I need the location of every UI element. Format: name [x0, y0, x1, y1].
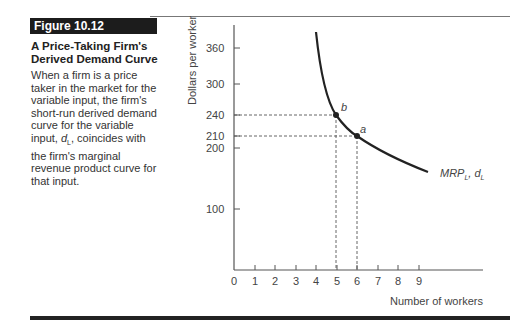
y-ticks	[234, 48, 240, 209]
svg-text:3: 3	[293, 275, 299, 287]
svg-text:210: 210	[206, 130, 224, 142]
svg-text:1: 1	[252, 275, 258, 287]
svg-text:6: 6	[354, 275, 360, 287]
mrp-curve	[316, 32, 428, 172]
svg-text:200: 200	[206, 142, 224, 154]
svg-text:4: 4	[313, 275, 319, 287]
x-axis-title: Number of workers	[390, 295, 483, 307]
svg-text:9: 9	[416, 275, 422, 287]
svg-text:300: 300	[206, 78, 224, 90]
y-tick-labels: 360 300 240 210 200 100	[206, 42, 224, 215]
svg-text:8: 8	[395, 275, 401, 287]
guide-lines	[234, 115, 357, 270]
curve-label: MRPL, dL	[440, 167, 485, 181]
svg-text:7: 7	[375, 275, 381, 287]
svg-text:0: 0	[231, 275, 237, 287]
x-tick-labels: 0 1 2 3 4 5 6 7 8 9	[231, 275, 422, 287]
svg-text:360: 360	[206, 42, 224, 54]
point-b	[333, 112, 339, 118]
x-ticks	[255, 265, 419, 270]
y-axis-title: Dollars per worker	[186, 15, 198, 105]
point-b-label: b	[341, 101, 347, 113]
svg-text:100: 100	[206, 203, 224, 215]
svg-text:2: 2	[272, 275, 278, 287]
point-a-label: a	[360, 123, 366, 135]
svg-text:240: 240	[206, 109, 224, 121]
chart: 360 300 240 210 200 100 0 1 2 3 4 5 6 7 …	[0, 0, 523, 330]
svg-text:5: 5	[334, 275, 340, 287]
bottom-rule	[30, 316, 510, 320]
